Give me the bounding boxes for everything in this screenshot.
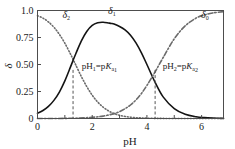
x-tick-label-4: 4 xyxy=(144,121,149,132)
distribution-diagram-figure: 024600.250.500.751.0 δ2δ1δ0 pH1=pKa1pH2=… xyxy=(0,0,235,149)
x-tick-label-2: 2 xyxy=(90,121,95,132)
y-tick-label-1.0: 1.0 xyxy=(21,5,34,16)
x-tick-label-0: 0 xyxy=(35,121,40,132)
y-tick-label-0.75: 0.75 xyxy=(16,32,34,43)
y-axis-title: δ xyxy=(2,63,14,69)
x-tick-label-6: 6 xyxy=(199,121,204,132)
y-tick-label-0.25: 0.25 xyxy=(16,86,34,97)
x-axis-title: pH xyxy=(123,135,137,147)
chart-canvas: 024600.250.500.751.0 δ2δ1δ0 pH1=pKa1pH2=… xyxy=(0,0,235,149)
y-tick-label-0: 0 xyxy=(29,113,34,124)
y-tick-label-0.50: 0.50 xyxy=(16,59,34,70)
